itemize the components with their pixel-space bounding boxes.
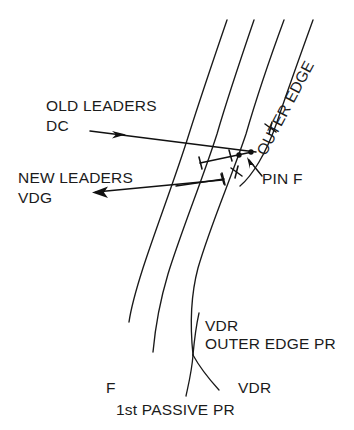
label-old-leaders: OLD LEADERS DC bbox=[46, 96, 157, 136]
pin-dot-icon bbox=[236, 152, 241, 157]
label-f: F bbox=[106, 378, 116, 398]
label-new-leaders: NEW LEADERS VDG bbox=[18, 168, 133, 208]
label-vdr-lower: VDR bbox=[238, 378, 271, 398]
branch-curve-left bbox=[186, 355, 193, 396]
label-first-passive-pr: 1st PASSIVE PR bbox=[116, 400, 235, 420]
branch-curve-right bbox=[193, 355, 219, 390]
branch-curve-group bbox=[186, 355, 219, 396]
label-old-leaders-line2: DC bbox=[46, 116, 157, 136]
lower-callout-group bbox=[193, 313, 199, 355]
label-new-leaders-line2: VDG bbox=[18, 188, 133, 208]
mid-leader-tick bbox=[229, 150, 232, 161]
label-pin-f: PIN F bbox=[262, 169, 303, 189]
label-vdr-upper: VDR bbox=[205, 316, 238, 336]
vdr-outer-edge-pr-stem bbox=[193, 313, 199, 355]
diagram-canvas: OLD LEADERS DC NEW LEADERS VDG PIN F OUT… bbox=[0, 0, 354, 430]
label-outer-edge-pr: OUTER EDGE PR bbox=[205, 334, 336, 354]
thread-curve-2 bbox=[153, 20, 254, 352]
thread-curve-1 bbox=[129, 20, 227, 322]
label-old-leaders-line1: OLD LEADERS bbox=[46, 96, 157, 116]
upper-stitch-segment bbox=[200, 152, 252, 163]
arrow-up-left-icon bbox=[247, 157, 254, 169]
label-new-leaders-line1: NEW LEADERS bbox=[18, 168, 133, 188]
